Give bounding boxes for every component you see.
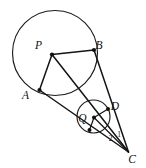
vertex-dot-d: [106, 107, 110, 111]
angle-label-1: 1: [117, 130, 121, 139]
vertex-dot-q: [92, 116, 96, 120]
segment-p-a: [40, 55, 53, 91]
vertex-dot-a: [37, 88, 41, 92]
point-label-p: P: [34, 39, 42, 51]
geometry-canvas: P B A Q D C 2 1: [0, 0, 146, 168]
angle-label-2: 2: [109, 134, 113, 143]
geometry-figure: P B A Q D C 2 1: [0, 0, 146, 168]
vertex-dot-tangent: [88, 128, 92, 132]
segment-p-b: [52, 50, 94, 55]
point-label-c: C: [128, 153, 136, 165]
circle-p: [13, 11, 98, 96]
point-label-b: B: [95, 39, 102, 51]
point-label-a: A: [21, 89, 30, 101]
vertex-dot-p: [50, 52, 54, 56]
point-label-d: D: [110, 100, 120, 112]
point-label-q: Q: [78, 112, 87, 124]
